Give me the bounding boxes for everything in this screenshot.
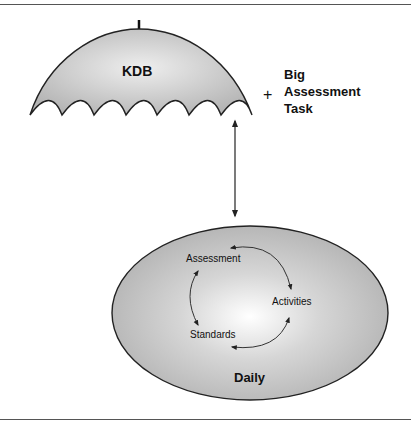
diagram-canvas <box>0 0 411 428</box>
big-assessment-line-2: Assessment <box>284 84 361 99</box>
cycle-node-activities: Activities <box>272 296 311 307</box>
cycle-node-assessment: Assessment <box>186 253 240 264</box>
bottom-rule <box>0 419 411 420</box>
big-assessment-line-1: Big <box>284 67 305 82</box>
big-assessment-line-3: Task <box>284 101 313 116</box>
ellipse-label: Daily <box>234 370 265 385</box>
plus-symbol: + <box>263 86 272 104</box>
cycle-node-standards: Standards <box>190 329 236 340</box>
umbrella-label: KDB <box>122 63 152 79</box>
